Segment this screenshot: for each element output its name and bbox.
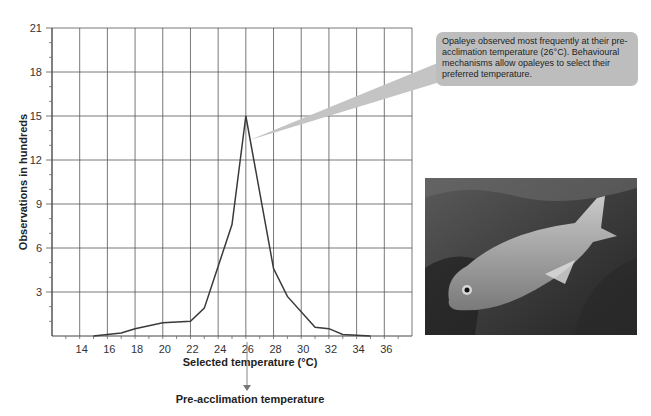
y-tick-label: 3 [36, 286, 42, 298]
y-tick-label: 21 [30, 22, 42, 34]
x-tick-label: 24 [214, 343, 226, 355]
arrow-down-icon [243, 385, 251, 391]
x-tick-label: 32 [325, 343, 337, 355]
x-axis-title: Selected temperature (°C) [183, 356, 318, 368]
chart-grid [46, 28, 412, 336]
callout-pointer [250, 62, 440, 140]
axis-ticks [49, 43, 398, 339]
x-tick-label: 22 [186, 343, 198, 355]
x-tick-label: 26 [242, 343, 254, 355]
x-tick-label: 18 [131, 343, 143, 355]
x-tick-label: 16 [103, 343, 115, 355]
y-tick-label: 15 [30, 110, 42, 122]
y-axis-title: Observations in hundreds [17, 114, 29, 250]
y-tick-label: 6 [36, 242, 42, 254]
y-tick-label: 18 [30, 66, 42, 78]
x-tick-label: 14 [76, 343, 88, 355]
x-tick-label: 30 [297, 343, 309, 355]
pre-acclimation-label: Pre-acclimation temperature [150, 393, 350, 405]
fish-photo [425, 178, 637, 335]
annotation-callout: Opaleye observed most frequently at thei… [436, 32, 638, 86]
x-tick-label: 28 [269, 343, 281, 355]
x-tick-label: 36 [380, 343, 392, 355]
y-tick-label: 12 [30, 154, 42, 166]
y-tick-label: 9 [36, 198, 42, 210]
x-tick-label: 34 [352, 343, 364, 355]
x-tick-label: 20 [159, 343, 171, 355]
